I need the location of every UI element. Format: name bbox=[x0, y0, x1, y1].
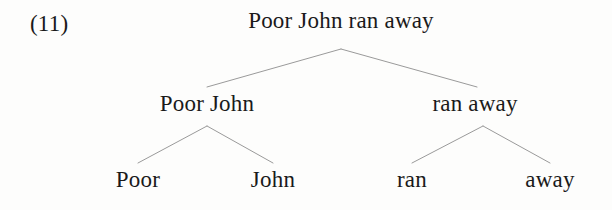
example-number: (11) bbox=[30, 12, 68, 35]
tree-leaf-word: Poor bbox=[116, 168, 160, 191]
tree-node-root: Poor John ran away bbox=[248, 9, 434, 32]
tree-node-subject-phrase: Poor John bbox=[160, 92, 254, 115]
tree-branch-np-to-poor bbox=[138, 126, 207, 163]
tree-node-predicate-phrase: ran away bbox=[432, 92, 517, 115]
tree-branch-vp-to-away bbox=[483, 126, 550, 163]
tree-branch-vp-to-ran bbox=[412, 126, 483, 163]
tree-leaf-word: away bbox=[525, 168, 574, 191]
tree-branch-root-to-vp bbox=[341, 49, 477, 87]
tree-leaf-word: John bbox=[251, 168, 295, 191]
tree-leaf-word: ran bbox=[397, 168, 427, 191]
tree-branch-root-to-np bbox=[207, 49, 341, 87]
tree-branch-np-to-john bbox=[207, 126, 273, 163]
syntax-tree-figure: (11) Poor John ran away Poor John ran aw… bbox=[0, 0, 612, 210]
